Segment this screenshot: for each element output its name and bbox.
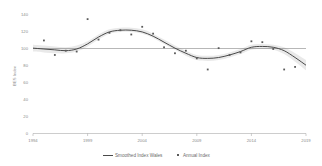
data-point [240, 52, 242, 54]
data-point [54, 54, 56, 56]
data-point [251, 40, 253, 42]
data-point [130, 34, 132, 36]
y-tick-label-80: 80 [23, 63, 28, 68]
y-tick-label-120: 120 [21, 29, 29, 34]
y-tick-label-20: 20 [23, 114, 28, 119]
y-tick-label-100: 100 [21, 46, 29, 51]
y-tick-label-140: 140 [21, 12, 29, 17]
legend: Smoothed Index Wales Annual Index [103, 153, 211, 158]
y-tick-label-40: 40 [23, 97, 28, 102]
legend-label-smoothed: Smoothed Index Wales [115, 153, 163, 158]
data-point [272, 48, 274, 50]
y-tick-label-0: 0 [26, 131, 29, 136]
x-tick-label-2004: 2004 [138, 138, 148, 143]
data-point [141, 26, 143, 28]
data-point [229, 54, 231, 56]
data-point [294, 66, 296, 68]
y-tick-label-60: 60 [23, 80, 28, 85]
data-point [207, 69, 209, 71]
data-point [163, 46, 165, 48]
data-point [185, 50, 187, 52]
chart-container: 140 120 100 80 60 40 20 0 BES Index 1994… [0, 0, 322, 166]
data-point [65, 50, 67, 52]
data-point [196, 57, 198, 59]
data-point [76, 51, 78, 53]
x-axis-tick-labels: 1994 1999 2004 2009 2014 2019 [28, 138, 311, 143]
confidence-band [33, 27, 306, 70]
legend-square-marker [177, 154, 179, 156]
x-tick-label-2019: 2019 [301, 138, 311, 143]
data-point [218, 47, 220, 49]
data-point [174, 52, 176, 54]
x-tick-label-2014: 2014 [247, 138, 257, 143]
data-point [261, 41, 263, 43]
data-point [87, 18, 89, 20]
chart-svg: 140 120 100 80 60 40 20 0 BES Index 1994… [0, 0, 322, 166]
x-tick-label-1999: 1999 [83, 138, 93, 143]
data-point [43, 40, 45, 42]
x-axis-ticks [33, 134, 306, 137]
y-axis-tick-labels: 140 120 100 80 60 40 20 0 [21, 12, 29, 136]
data-point [98, 39, 100, 41]
data-point [152, 33, 154, 35]
y-axis-title: BES Index [12, 65, 17, 86]
x-tick-label-1994: 1994 [28, 138, 38, 143]
x-tick-label-2009: 2009 [192, 138, 202, 143]
legend-label-annual: Annual Index [183, 153, 211, 158]
data-point [119, 29, 121, 31]
data-point [109, 32, 111, 34]
data-point [283, 69, 285, 71]
